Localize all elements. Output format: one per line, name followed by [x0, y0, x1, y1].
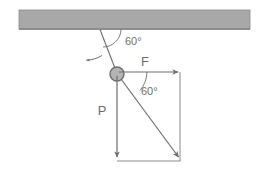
weight-vector-P-label: P — [98, 103, 107, 118]
force-vector-diagram: 60° 60° F P — [0, 0, 265, 175]
ceiling-string-angle-label: 60° — [125, 35, 142, 47]
physics-figure-container: 60° 60° F P — [0, 0, 265, 175]
ceiling-support — [19, 10, 250, 29]
swing-direction-arrow — [87, 56, 103, 61]
force-resultant-angle-label: 60° — [141, 85, 158, 97]
force-vector-F-label: F — [141, 54, 149, 69]
